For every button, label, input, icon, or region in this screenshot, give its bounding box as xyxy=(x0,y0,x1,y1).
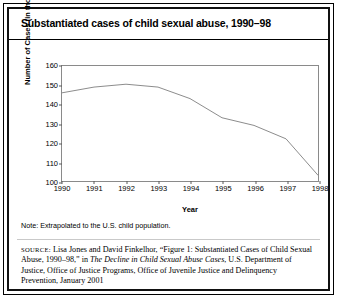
chart-area: Number of Cases (in thousands) 100110120… xyxy=(9,41,328,215)
y-tick-label: 140 xyxy=(45,101,58,109)
source-label: SOURCE: xyxy=(21,246,51,253)
x-tick-mark xyxy=(62,181,63,184)
y-tick-label: 130 xyxy=(45,121,58,129)
y-tick-mark xyxy=(59,66,62,67)
line-series xyxy=(62,66,318,181)
y-tick-mark xyxy=(59,163,62,164)
y-axis-title: Number of Cases (in thousands) xyxy=(23,73,32,85)
y-tick-label: 160 xyxy=(45,62,58,70)
x-axis-title: Year xyxy=(61,205,319,214)
x-tick-label: 1998 xyxy=(312,185,329,193)
y-tick-mark xyxy=(59,85,62,86)
figure-outer-border: Substantiated cases of child sexual abus… xyxy=(3,3,334,295)
x-tick-mark xyxy=(320,181,321,184)
y-tick-mark xyxy=(59,124,62,125)
x-tick-mark xyxy=(126,181,127,184)
x-tick-mark xyxy=(223,181,224,184)
source-italic-title: The Decline in Child Sexual Abuse Cases xyxy=(90,255,224,264)
x-tick-label: 1994 xyxy=(183,185,200,193)
y-tick-label: 150 xyxy=(45,82,58,90)
y-tick-label: 110 xyxy=(46,160,58,168)
title-divider xyxy=(9,39,328,40)
x-tick-label: 1997 xyxy=(279,185,296,193)
x-tick-label: 1995 xyxy=(215,185,232,193)
x-tick-label: 1990 xyxy=(54,185,71,193)
source-divider xyxy=(17,239,320,240)
figure-inner-frame: Substantiated cases of child sexual abus… xyxy=(7,7,330,291)
x-tick-mark xyxy=(191,181,192,184)
y-tick-label: 120 xyxy=(45,140,58,148)
x-tick-mark xyxy=(158,181,159,184)
x-tick-label: 1996 xyxy=(247,185,264,193)
figure-note: Note: Extrapolated to the U.S. child pop… xyxy=(21,221,316,230)
plot-frame: 1001101201301401501601990199119921993199… xyxy=(61,65,319,182)
figure-title: Substantiated cases of child sexual abus… xyxy=(21,17,318,30)
x-tick-mark xyxy=(94,181,95,184)
x-tick-label: 1991 xyxy=(86,185,103,193)
x-tick-label: 1993 xyxy=(150,185,167,193)
y-tick-mark xyxy=(59,144,62,145)
x-tick-mark xyxy=(287,181,288,184)
x-tick-mark xyxy=(255,181,256,184)
figure-source: SOURCE: Lisa Jones and David Finkelhor, … xyxy=(21,245,316,287)
x-tick-label: 1992 xyxy=(118,185,135,193)
y-tick-mark xyxy=(59,105,62,106)
